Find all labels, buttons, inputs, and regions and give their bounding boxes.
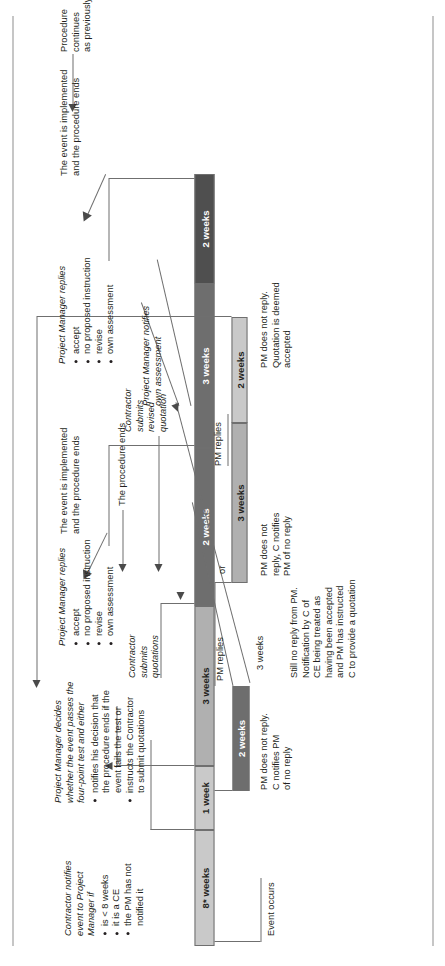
leader-contractor-notifies-v: [150, 829, 194, 830]
list-item: own assessment: [104, 254, 116, 364]
block-pm-replies-2-list: accept no proposed instruction revise ow…: [70, 254, 116, 364]
block-contractor-notifies-list: is < 8 weeks it is a CE the PM has not n…: [99, 832, 145, 936]
bar-2-weeks-branch: 2 weeks: [231, 317, 247, 423]
bar-8-weeks: 8* weeks: [194, 830, 214, 946]
list-item: accept: [70, 254, 82, 364]
bar-3-weeks-upper: 3 weeks: [194, 284, 214, 448]
list-item: revise: [93, 536, 105, 646]
label-procedure-continues: Procedure continues as previously: [58, 0, 93, 52]
branch-rule-2-v: [231, 422, 247, 423]
list-item: no proposed instruction: [81, 536, 93, 646]
arrow-procedure-ends: [118, 564, 126, 572]
arrow-into-main-bar: [176, 592, 184, 600]
list-item: revise: [93, 254, 105, 364]
list-item: notifies his decision that the procedure…: [89, 643, 124, 803]
list-item: the PM has not notified it: [122, 832, 145, 936]
bar-2-weeks-top-label: 2 weeks: [199, 210, 210, 247]
label-event-implemented-2: The event is implemented and the procedu…: [58, 34, 81, 176]
bar-1-week-label: 1 week: [199, 782, 210, 814]
leader-pm-replies-block-2-v: [108, 178, 194, 179]
leader-pm-replies-block-1: [108, 446, 109, 546]
label-pm-replies-2: PM replies: [212, 402, 224, 466]
block-pm-decides-head: Project Manager decides whether the even…: [52, 643, 87, 803]
label-pm-replies-1: PM replies: [214, 611, 226, 681]
bar-1-week: 1 week: [194, 766, 214, 830]
arrow-own-assessment: [171, 403, 181, 413]
leader-branch-down-1: [214, 790, 232, 791]
bar-2-weeks-pm-noreply: 2 weeks: [232, 686, 249, 791]
label-pm-does-not-reply-deemed: PM does not reply. Quotation is deemed a…: [258, 244, 293, 368]
frame-top-rule: [12, 16, 13, 946]
bar-3-weeks-main-label: 3 weeks: [199, 667, 210, 704]
leader-pm-replies-block-2: [108, 179, 109, 261]
leader-contractor-notifies: [150, 740, 151, 830]
bar-2-weeks-branch-label: 2 weeks: [234, 351, 245, 388]
leader-pm-replies-2: [227, 414, 228, 466]
label-event-occurs: Event occurs: [265, 846, 277, 936]
diagram-canvas: 8* weeks 1 week 3 weeks 2 weeks 3 weeks …: [0, 0, 445, 966]
diagram-page: 8* weeks 1 week 3 weeks 2 weeks 3 weeks …: [0, 0, 445, 966]
bar-8-weeks-label: 8* weeks: [199, 868, 210, 909]
block-pm-replies-1-head: Project Manager replies: [56, 536, 68, 646]
list-item: accept: [70, 536, 82, 646]
list-item: no proposed instruction: [81, 254, 93, 364]
arrow-event-implemented-2: [79, 211, 92, 223]
label-still-no-reply: Still no reply from PM. Notification by …: [288, 528, 358, 678]
label-event-implemented-1: The event is implemented and the procedu…: [58, 394, 81, 534]
arrow-return-path: [32, 680, 40, 688]
block-contractor-notifies-head: Contractor notifies event to Project Man…: [62, 832, 97, 936]
leader-event-occurs: [214, 941, 260, 942]
arrow-procedure-ends-line: [122, 510, 123, 566]
block-pm-replies-1: Project Manager replies accept no propos…: [56, 536, 116, 646]
bar-3-weeks-upper-label: 3 weeks: [199, 347, 210, 384]
bar-2-weeks-pm-noreply-label: 2 weeks: [235, 720, 246, 757]
bar-3-weeks-main: 3 weeks: [194, 606, 214, 766]
label-contractor-submits-quotations: Contractor submits quotations: [126, 598, 161, 678]
arrow-event-implemented-2-line: [86, 174, 106, 216]
block-pm-replies-2: Project Manager replies accept no propos…: [56, 254, 116, 364]
label-pm-does-not-reply-c-notifies-2: PM does not reply, C notifies PM of no r…: [258, 468, 293, 576]
label-pm-does-not-reply-c-notifies: PM does not reply. C notifies PM of no r…: [258, 680, 293, 790]
arrow-revised-quotation: [154, 564, 162, 572]
bar-3-weeks-branch-label: 3 weeks: [234, 484, 245, 521]
leader-contractor-submits-quotations-v: [160, 603, 194, 604]
return-path-h: [36, 317, 37, 680]
label-or-1: or: [216, 554, 228, 574]
block-pm-replies-2-head: Project Manager replies: [56, 254, 68, 364]
bar-3-weeks-branch: 3 weeks: [231, 423, 247, 583]
frame-bottom-rule: [432, 16, 433, 946]
label-three-weeks-note-1: 3 weeks: [254, 610, 266, 670]
arrow-revised-quotation-line: [158, 436, 159, 566]
label-pm-notifies-own-assessment: Project Manager notifies own assessment: [140, 260, 163, 406]
branch-rule-1-v: [214, 582, 231, 583]
leader-event-occurs-h: [260, 878, 261, 942]
list-item: is < 8 weeks: [99, 832, 111, 936]
list-item: own assessment: [104, 536, 116, 646]
bar-2-weeks-top: 2 weeks: [194, 174, 214, 284]
block-contractor-notifies: Contractor notifies event to Project Man…: [62, 832, 145, 936]
block-pm-replies-1-list: accept no proposed instruction revise ow…: [70, 536, 116, 646]
list-item: it is a CE: [110, 832, 122, 936]
